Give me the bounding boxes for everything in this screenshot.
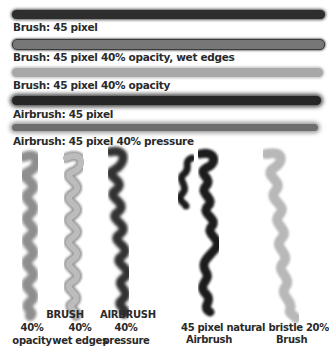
caption-natural-brush: Brush bbox=[276, 334, 316, 346]
caption-brush-title: BRUSH bbox=[39, 309, 91, 321]
squiggle-natural-airbrush-long bbox=[200, 153, 217, 312]
caption-natural-airbrush: Airbrush bbox=[186, 334, 236, 346]
caption-brush-wet-pct: 40% bbox=[60, 322, 100, 334]
caption-brush-opacity-pct: 40% bbox=[12, 322, 52, 334]
caption-brush-opacity-label: opacity bbox=[8, 335, 56, 347]
caption-natural-line1: 45 pixel natural bristle 20% bbox=[181, 322, 311, 334]
squiggle-brush-opacity bbox=[24, 155, 37, 316]
squiggle-samples bbox=[0, 0, 329, 350]
caption-airbrush-pct: 40% bbox=[106, 322, 146, 334]
caption-airbrush-title: AIRBRUSH bbox=[100, 309, 152, 321]
squiggle-airbrush-pressure bbox=[110, 151, 127, 314]
squiggle-natural-brush bbox=[266, 153, 296, 318]
caption-airbrush-label: pressure bbox=[100, 335, 152, 347]
squiggle-natural-airbrush-short bbox=[180, 158, 192, 206]
